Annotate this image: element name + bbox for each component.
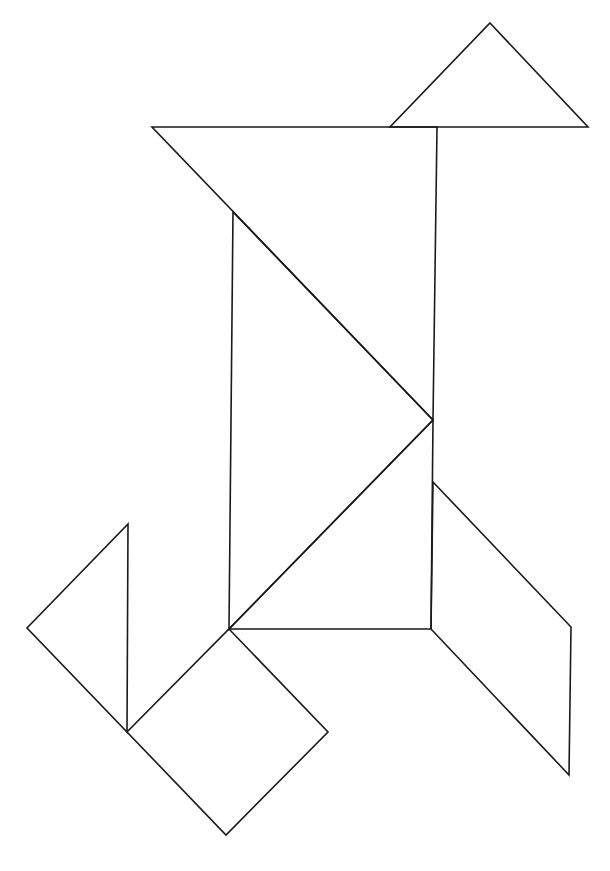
tangram-canvas xyxy=(0,0,610,871)
background xyxy=(0,0,610,871)
